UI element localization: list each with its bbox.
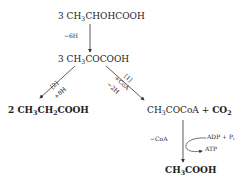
coefficient: 2 <box>8 105 14 115</box>
formula-part: CH <box>147 105 162 115</box>
formula-part: CH <box>67 54 82 64</box>
formula-part: CH <box>67 11 82 21</box>
formula-part: CH <box>165 165 181 175</box>
formula-part: COOH <box>185 165 216 175</box>
arrows-layer <box>0 0 252 187</box>
formula-part: CH <box>17 105 33 115</box>
arrow-adp-atp <box>186 138 206 152</box>
subscript: 2 <box>227 109 231 116</box>
co2: CO2 <box>212 105 231 115</box>
label-adp-pi: ADP + Pi <box>207 134 234 140</box>
formula-part: COCoA <box>166 105 199 115</box>
coefficient: 3 <box>58 11 64 21</box>
formula-part: CHOHCOOH <box>85 11 144 21</box>
adp-text: ADP + P <box>207 133 233 140</box>
formula-part: CH <box>37 105 53 115</box>
node-acetate: CH3COOH <box>165 166 216 175</box>
formula-part: CO <box>212 105 227 115</box>
subscript: i <box>233 136 234 141</box>
label-atp: ATP <box>205 146 217 152</box>
plus-sign: + <box>202 105 210 115</box>
label-minus-coa: −CoA <box>150 136 168 142</box>
label-minus-6h: −6H <box>64 33 78 39</box>
node-lactate: 3 CH3CHOHCOOH <box>58 12 145 21</box>
formula-part: COCOOH <box>85 54 129 64</box>
node-pyruvate: 3 CH3COCOOH <box>58 55 129 64</box>
node-propionate: 2 CH3CH2COOH <box>8 106 89 115</box>
coefficient: 3 <box>58 54 64 64</box>
formula-part: COOH <box>58 105 89 115</box>
node-acetylcoa: CH3COCoA + CO2 <box>147 106 232 115</box>
